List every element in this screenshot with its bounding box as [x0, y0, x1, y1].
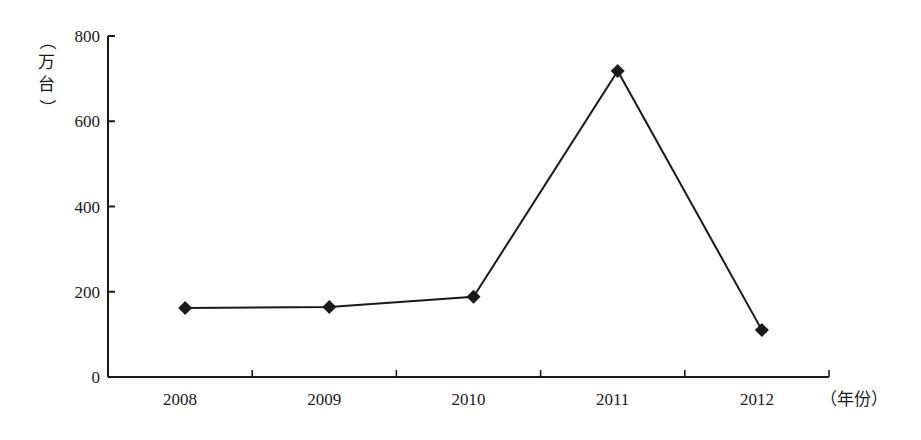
line-chart: 020040060080020082009201020112012 （年份） — [0, 0, 921, 440]
x-tick-label: 2010 — [452, 390, 486, 409]
y-tick-label: 400 — [75, 198, 101, 217]
x-tick-label: 2011 — [596, 390, 629, 409]
y-axis-label-open: （ — [35, 31, 57, 51]
diamond-marker — [755, 323, 769, 337]
y-tick-label: 800 — [75, 27, 101, 46]
y-axis-label-char-1: 万 — [36, 52, 56, 74]
y-tick-label: 0 — [92, 368, 101, 387]
y-axis-label-close: ） — [35, 97, 57, 117]
y-tick-label: 200 — [75, 283, 101, 302]
axes — [108, 36, 829, 377]
diamond-marker — [467, 290, 481, 304]
diamond-marker — [322, 300, 336, 314]
y-axis-label: （ 万 台 ） — [36, 30, 56, 118]
diamond-marker — [611, 64, 625, 78]
tick-labels: 020040060080020082009201020112012 — [75, 27, 774, 409]
x-tick-label: 2012 — [740, 390, 774, 409]
data-series — [178, 64, 769, 337]
x-axis-label: （年份） — [820, 390, 888, 409]
y-axis-label-char-2: 台 — [36, 74, 56, 96]
y-tick-label: 600 — [75, 112, 101, 131]
x-tick-label: 2009 — [307, 390, 341, 409]
x-tick-label: 2008 — [163, 390, 197, 409]
diamond-marker — [178, 301, 192, 315]
